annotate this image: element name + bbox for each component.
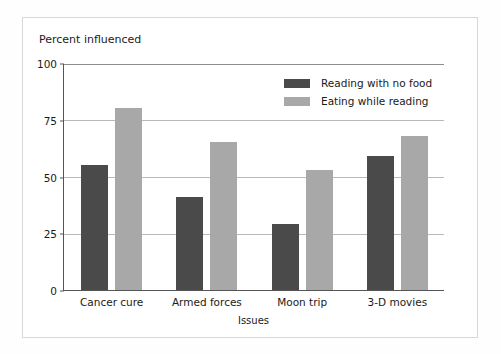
- chart-legend: Reading with no foodEating while reading: [284, 77, 432, 107]
- y-tick-mark: [60, 64, 64, 65]
- y-tick-label: 50: [44, 172, 57, 184]
- chart-card: Percent influenced 0255075100Cancer cure…: [22, 17, 478, 338]
- y-tick-mark: [60, 234, 64, 235]
- y-tick-mark: [60, 120, 64, 121]
- y-tick-label: 75: [44, 115, 57, 127]
- y-tick-label: 100: [37, 58, 57, 70]
- x-axis-title: Issues: [63, 315, 444, 326]
- bar: [115, 108, 142, 290]
- x-tick-label: Moon trip: [277, 296, 327, 308]
- y-tick-mark: [60, 177, 64, 178]
- bar: [176, 197, 203, 290]
- y-axis-title: Percent influenced: [39, 33, 141, 46]
- bar: [272, 224, 299, 290]
- y-tick-label: 25: [44, 228, 57, 240]
- bar: [306, 170, 333, 290]
- bar: [367, 156, 394, 290]
- y-tick-label: 0: [50, 285, 57, 297]
- x-tick-label: 3-D movies: [368, 296, 428, 308]
- legend-item: Reading with no food: [284, 77, 432, 89]
- x-tick-label: Armed forces: [172, 296, 242, 308]
- gridline: [64, 64, 444, 65]
- legend-swatch: [284, 79, 310, 88]
- bar: [81, 165, 108, 290]
- bar: [401, 136, 428, 290]
- legend-item: Eating while reading: [284, 95, 432, 107]
- bar: [210, 142, 237, 290]
- legend-label: Reading with no food: [321, 77, 432, 89]
- legend-label: Eating while reading: [321, 95, 429, 107]
- legend-swatch: [284, 97, 310, 106]
- y-tick-mark: [60, 291, 64, 292]
- x-tick-label: Cancer cure: [80, 296, 143, 308]
